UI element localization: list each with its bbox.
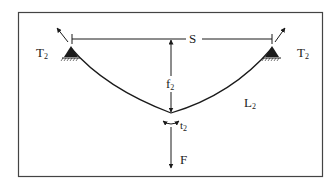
cable-length-text: L <box>244 95 252 110</box>
cable-diagram <box>0 0 334 192</box>
left-support-icon <box>61 46 80 61</box>
force-text: F <box>180 152 187 167</box>
tension-right-sub: 2 <box>305 52 309 61</box>
angle-label: t2 <box>180 120 187 133</box>
right-support-icon <box>262 46 281 61</box>
sag-sub: 2 <box>170 83 174 92</box>
span-label: S <box>189 32 196 45</box>
tension-left-sub: 2 <box>44 52 48 61</box>
tension-right-text: T <box>297 45 305 60</box>
cable-length-label: L2 <box>244 96 256 111</box>
tension-left-arrow-icon <box>57 28 68 42</box>
span-label-text: S <box>189 31 196 46</box>
tension-right-label: T2 <box>297 46 309 61</box>
force-label: F <box>180 153 187 166</box>
tension-right-arrow-icon <box>275 28 285 42</box>
angle-sub: 2 <box>183 124 187 133</box>
angle-arc-icon <box>163 121 179 124</box>
tension-left-text: T <box>36 45 44 60</box>
cable-length-sub: 2 <box>252 102 256 111</box>
sag-label: f2 <box>166 77 174 92</box>
span-dimension-line <box>72 34 272 44</box>
tension-left-label: T2 <box>36 46 48 61</box>
